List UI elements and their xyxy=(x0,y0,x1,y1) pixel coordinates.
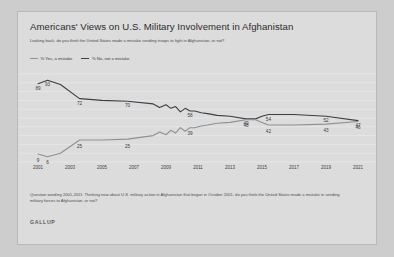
data-label: 42 xyxy=(266,129,272,134)
chart-subtitle: Looking back, do you think the United St… xyxy=(30,38,330,44)
gallup-logo: GALLUP xyxy=(30,219,56,225)
data-label: 70 xyxy=(125,103,131,108)
legend-item[interactable]: % No, not a mistake xyxy=(81,56,129,61)
data-label: 54 xyxy=(266,117,272,122)
legend-swatch-icon xyxy=(30,58,38,59)
x-axis-tick-label: 2005 xyxy=(97,165,107,170)
x-axis-tick-label: 2003 xyxy=(65,165,75,170)
x-axis-tick-label: 2021 xyxy=(353,165,363,170)
x-axis-tick-label: 2009 xyxy=(161,165,171,170)
data-label: 25 xyxy=(77,144,83,149)
x-axis-tick-label: 2011 xyxy=(193,165,203,170)
data-label: 52 xyxy=(323,118,329,123)
data-label: 93 xyxy=(45,82,51,87)
data-label: 25 xyxy=(125,144,131,149)
page-title: Americans' Views on U.S. Military Involv… xyxy=(30,21,293,32)
data-label: 58 xyxy=(187,113,193,118)
page-background: Americans' Views on U.S. Military Involv… xyxy=(0,0,394,257)
data-label: 72 xyxy=(77,101,83,106)
legend-label: % Yes, a mistake xyxy=(41,56,73,61)
data-label: 89 xyxy=(35,86,41,91)
x-axis-tick-label: 2007 xyxy=(129,165,139,170)
chart-plot-area: 8993727058495452479625253948424346 xyxy=(18,68,376,168)
data-label: 46 xyxy=(355,125,361,130)
data-label: 48 xyxy=(243,123,249,128)
line-chart-svg: 8993727058495452479625253948424346 xyxy=(18,68,376,168)
data-label: 43 xyxy=(323,128,329,133)
x-axis-tick-label: 2013 xyxy=(225,165,235,170)
x-axis-tick-label: 2015 xyxy=(257,165,267,170)
x-axis: 2001200320052007200920112013201520172019… xyxy=(18,165,376,177)
x-axis-tick-label: 2001 xyxy=(33,165,43,170)
chart-card: Americans' Views on U.S. Military Involv… xyxy=(17,11,377,245)
x-axis-tick-label: 2019 xyxy=(321,165,331,170)
series-line xyxy=(38,120,358,157)
data-label: 39 xyxy=(187,131,193,136)
x-axis-tick-label: 2017 xyxy=(289,165,299,170)
legend-label: % No, not a mistake xyxy=(92,56,129,61)
legend-item[interactable]: % Yes, a mistake xyxy=(30,56,72,61)
chart-footnote: Question wording 2001-2011: Thinking now… xyxy=(30,192,340,204)
data-label: 9 xyxy=(37,158,40,163)
chart-legend: % Yes, a mistake% No, not a mistake xyxy=(30,56,129,61)
legend-swatch-icon xyxy=(81,58,89,59)
